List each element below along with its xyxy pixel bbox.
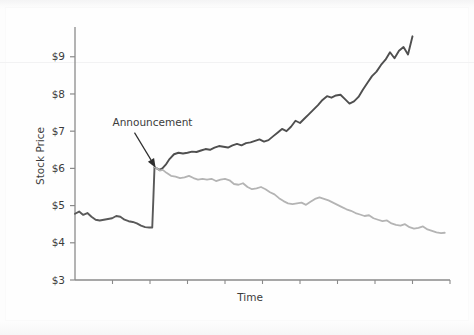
y-axis-tick-label: $5 (52, 199, 65, 211)
y-axis-ticks (70, 57, 75, 280)
stock-price-line-chart: $3$4$5$6$7$8$9 Announcement Stock Price … (0, 0, 474, 335)
y-axis-tick-label: $4 (52, 236, 66, 248)
y-axis-tick-label: $6 (52, 162, 66, 174)
series-line-downward-post-announcement (155, 167, 445, 233)
y-axis-title: Stock Price (34, 127, 46, 185)
annotation-arrow-head (148, 158, 156, 168)
series-line-pre-announcement (75, 167, 155, 227)
series-line-upward-post-announcement (155, 36, 413, 170)
annotation-label: Announcement (113, 116, 193, 128)
annotation-arrow-line (135, 133, 151, 160)
y-axis-tick-label: $9 (52, 50, 65, 62)
scanned-page: $3$4$5$6$7$8$9 Announcement Stock Price … (0, 0, 474, 335)
x-axis-title: Time (236, 291, 263, 303)
data-series-group (75, 36, 445, 233)
y-axis-tick-label: $3 (52, 274, 65, 286)
y-axis-tick-label: $7 (52, 125, 65, 137)
y-axis-tick-label: $8 (52, 88, 65, 100)
announcement-annotation: Announcement (113, 116, 193, 168)
y-axis-tick-labels: $3$4$5$6$7$8$9 (52, 50, 66, 285)
